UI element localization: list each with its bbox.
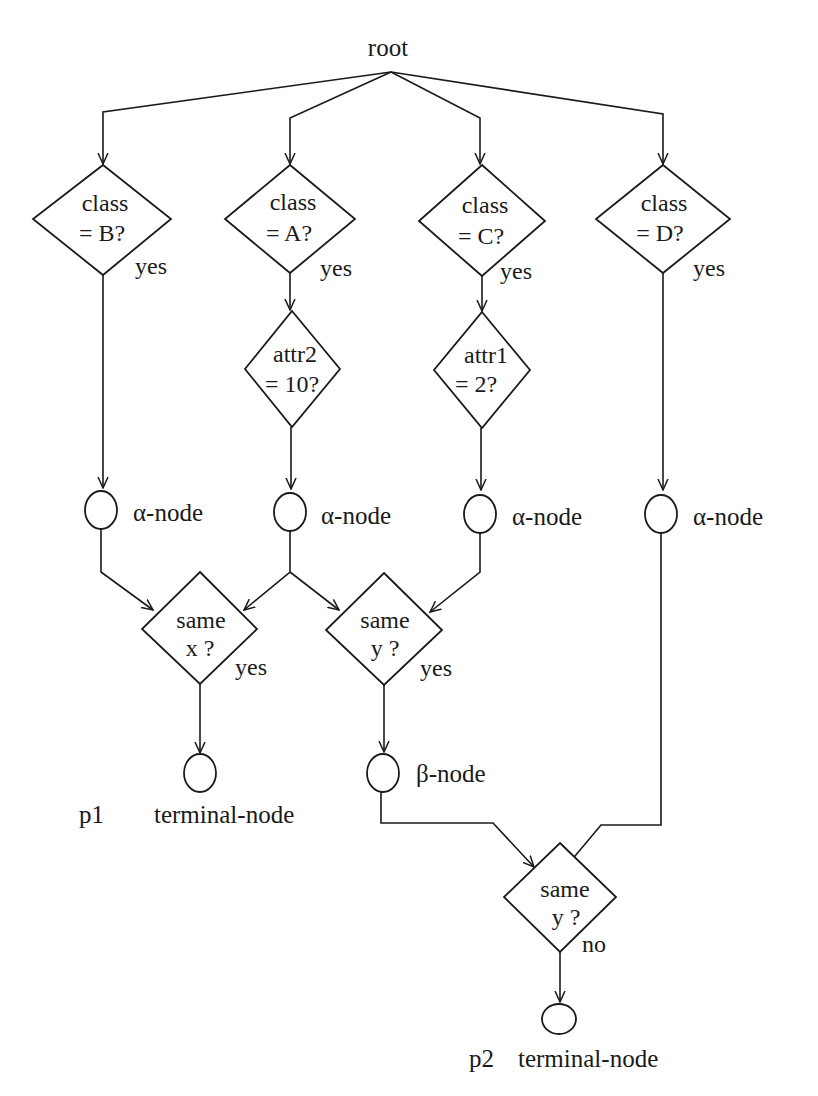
terminal-p2-label: terminal-node <box>518 1045 658 1072</box>
diamond-attr2 <box>245 311 340 427</box>
alpha-node-1: α-node <box>85 491 203 529</box>
alpha-node-3-label: α-node <box>512 503 582 530</box>
class-c-branch: yes <box>500 258 532 284</box>
edge-alpha2-same-y <box>290 572 339 610</box>
join-test-same-y-2: same y ? no <box>504 843 616 957</box>
attr2-line2: = 10? <box>265 371 319 397</box>
root-label: root <box>368 34 408 61</box>
alpha-node-4-circle <box>645 495 677 533</box>
alpha-node-3-circle <box>464 495 496 533</box>
same-y-2-branch: no <box>582 931 606 957</box>
terminal-node-p1-circle <box>184 754 216 792</box>
attr-test-attr2: attr2 = 10? <box>245 311 340 427</box>
same-x-line1: same <box>176 607 225 633</box>
same-x-line2: x ? <box>186 635 215 661</box>
same-y-line1: same <box>360 607 409 633</box>
attr2-line1: attr2 <box>273 341 317 367</box>
beta-node-label: β-node <box>416 760 486 787</box>
edge-beta-same-y2 <box>381 792 534 867</box>
diamond-attr1 <box>434 312 530 428</box>
beta-node-circle <box>367 754 399 792</box>
class-a-branch: yes <box>320 255 352 281</box>
edge-root-class-a <box>290 72 391 164</box>
class-d-line1: class <box>641 190 688 216</box>
class-d-line2: = D? <box>636 220 684 246</box>
join-test-same-y: same y ? yes <box>326 573 452 685</box>
join-test-same-x: same x ? yes <box>142 572 267 684</box>
class-test-a: class = A? yes <box>225 165 355 281</box>
beta-node: β-node <box>367 754 486 792</box>
alpha-node-4: α-node <box>645 495 763 533</box>
alpha-node-2-circle <box>274 493 306 531</box>
terminal-p1-production: p1 <box>79 801 104 828</box>
root-edges <box>103 72 663 164</box>
class-b-branch: yes <box>135 253 167 279</box>
class-c-line1: class <box>462 192 509 218</box>
edge-alpha1-same-x <box>101 529 153 610</box>
terminal-node-p2: p2 terminal-node <box>469 1004 658 1072</box>
terminal-p2-production: p2 <box>469 1045 494 1072</box>
class-test-b: class = B? yes <box>33 165 171 279</box>
edge-root-class-c <box>391 72 480 164</box>
terminal-node-p1: p1 terminal-node <box>79 754 294 828</box>
attr1-line1: attr1 <box>464 342 508 368</box>
alpha-node-1-circle <box>85 491 117 529</box>
class-b-line1: class <box>82 190 129 216</box>
class-a-line2: = A? <box>266 220 312 246</box>
alpha-node-3: α-node <box>464 495 582 533</box>
terminal-p1-label: terminal-node <box>154 801 294 828</box>
rete-network-diagram: root class = B? yes class = A? yes class… <box>0 0 818 1096</box>
class-b-line2: = B? <box>79 220 125 246</box>
same-y-branch: yes <box>420 655 452 681</box>
alpha-node-1-label: α-node <box>133 499 203 526</box>
same-y-2-line2: y ? <box>552 904 581 930</box>
class-a-line1: class <box>270 189 317 215</box>
class-d-branch: yes <box>693 255 725 281</box>
class-c-line2: = C? <box>458 223 504 249</box>
edge-alpha4-same-y2 <box>565 533 661 868</box>
same-y-2-line1: same <box>540 876 589 902</box>
alpha-node-2: α-node <box>274 493 391 531</box>
edge-alpha3-same-y <box>430 533 480 612</box>
terminal-node-p2-circle <box>542 1004 576 1034</box>
alpha-node-4-label: α-node <box>693 503 763 530</box>
edge-root-class-b <box>103 72 391 164</box>
edge-root-class-d <box>391 72 663 164</box>
class-test-d: class = D? yes <box>596 165 730 281</box>
attr1-line2: = 2? <box>455 371 497 397</box>
edge-alpha2-same-x <box>244 531 290 610</box>
same-y-line2: y ? <box>371 635 400 661</box>
same-x-branch: yes <box>235 654 267 680</box>
class-test-c: class = C? yes <box>419 165 545 284</box>
attr-test-attr1: attr1 = 2? <box>434 312 530 428</box>
alpha-node-2-label: α-node <box>321 502 391 529</box>
